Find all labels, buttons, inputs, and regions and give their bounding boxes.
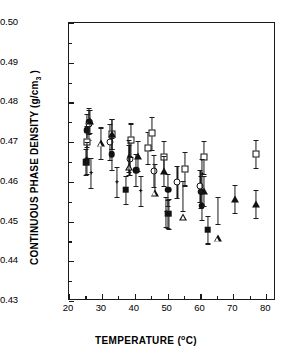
- error-bar: [110, 124, 111, 160]
- error-bar-cap: [108, 124, 113, 125]
- data-point-filled-circle: [165, 187, 172, 194]
- x-tick-major: [200, 294, 201, 299]
- x-tick-label: 70: [217, 303, 247, 313]
- error-bar-cap: [127, 175, 132, 176]
- error-bar-cap: [166, 206, 171, 207]
- y-tick-major: [69, 182, 74, 183]
- x-tick-label: 30: [86, 303, 116, 313]
- data-point-open-square: [149, 130, 156, 137]
- x-axis-title-tail: C): [186, 335, 197, 346]
- error-bar-cap: [199, 208, 204, 209]
- error-bar-cap: [199, 192, 204, 193]
- error-bar-cap: [205, 216, 210, 217]
- x-tick-minor: [217, 296, 218, 299]
- y-tick-minor: [69, 241, 72, 242]
- data-point-filled-triangle: [86, 118, 94, 125]
- x-tick-minor: [151, 296, 152, 299]
- error-bar-cap: [161, 141, 166, 142]
- data-point-open-triangle: [179, 213, 187, 220]
- y-tick-label: 0.45: [0, 216, 18, 226]
- error-bar-cap: [150, 117, 155, 118]
- error-bar: [184, 152, 185, 185]
- error-bar: [116, 167, 117, 197]
- x-axis-title: TEMPERATURE (oC): [0, 334, 292, 346]
- y-tick-label: 0.50: [0, 17, 18, 27]
- error-bar: [130, 123, 131, 156]
- error-bar-cap: [88, 110, 93, 111]
- error-bar: [203, 141, 204, 174]
- error-bar: [86, 114, 87, 147]
- error-bar-cap: [164, 227, 169, 228]
- x-tick-minor: [85, 296, 86, 299]
- y-tick-minor: [69, 122, 72, 123]
- error-bar-cap: [182, 152, 187, 153]
- error-bar-cap: [126, 140, 131, 141]
- error-bar-cap: [114, 197, 119, 198]
- error-bar: [200, 170, 201, 202]
- y-tick-major: [69, 23, 74, 24]
- data-point-open-circle: [107, 139, 114, 146]
- y-tick-major: [69, 261, 74, 262]
- error-bar-cap: [253, 140, 258, 141]
- error-bar-cap: [253, 218, 258, 219]
- error-bar: [166, 197, 167, 227]
- error-bar: [163, 156, 164, 186]
- error-bar: [255, 190, 256, 218]
- data-point-filled-circle: [198, 202, 205, 209]
- error-bar-cap: [215, 224, 220, 225]
- error-bar-cap: [109, 119, 114, 120]
- y-axis-title-main: CONTINUOUS PHASE DENSITY (g/cm: [29, 81, 40, 265]
- data-point-filled-circle: [133, 167, 140, 174]
- error-bar-cap: [215, 197, 220, 198]
- error-bar: [136, 154, 137, 186]
- error-bar: [152, 117, 153, 150]
- data-point-open-circle: [197, 182, 204, 189]
- y-tick-minor: [69, 281, 72, 282]
- y-tick-major: [69, 102, 74, 103]
- x-tick-major: [168, 294, 169, 299]
- y-tick-label: 0.49: [0, 57, 18, 67]
- y-tick-minor: [69, 43, 72, 44]
- error-bar-cap: [145, 164, 150, 165]
- error-bar: [89, 110, 90, 134]
- error-bar-cap: [232, 185, 237, 186]
- data-point-open-circle: [174, 178, 181, 185]
- data-point-filled-circle: [198, 188, 205, 195]
- y-tick-major: [69, 142, 74, 143]
- error-bar-cap: [110, 149, 115, 150]
- y-tick-label: 0.48: [0, 96, 18, 106]
- error-bar: [140, 176, 141, 206]
- data-point-open-square: [252, 151, 259, 158]
- error-bar: [217, 197, 218, 225]
- error-bar-cap: [127, 145, 132, 146]
- error-bar: [86, 142, 87, 174]
- data-point-small-star: [164, 209, 169, 214]
- error-bar-cap: [85, 126, 90, 127]
- data-point-open-circle: [150, 167, 157, 174]
- error-bar-cap: [109, 149, 114, 150]
- error-bar: [163, 141, 164, 173]
- y-tick-label: 0.47: [0, 136, 18, 146]
- error-bar-cap: [123, 204, 128, 205]
- data-point-small-star: [84, 156, 89, 161]
- error-bar: [88, 108, 89, 140]
- error-bar-cap: [161, 173, 166, 174]
- error-bar-cap: [161, 156, 166, 157]
- y-tick-minor: [69, 202, 72, 203]
- error-bar-cap: [166, 174, 171, 175]
- data-point-small-star: [200, 171, 205, 176]
- error-bar: [91, 158, 92, 188]
- data-point-open-triangle: [97, 140, 105, 147]
- error-bar: [89, 110, 90, 134]
- error-bar: [204, 176, 205, 206]
- x-tick-minor: [118, 296, 119, 299]
- data-point-filled-triangle: [200, 187, 208, 194]
- y-axis-title-tail: ): [29, 70, 40, 76]
- y-tick-major: [69, 63, 74, 64]
- error-bar-cap: [182, 185, 187, 186]
- error-bar-cap: [109, 138, 114, 139]
- x-tick-major: [135, 294, 136, 299]
- error-bar: [87, 126, 88, 158]
- error-bar: [153, 155, 154, 187]
- error-bar: [255, 140, 256, 168]
